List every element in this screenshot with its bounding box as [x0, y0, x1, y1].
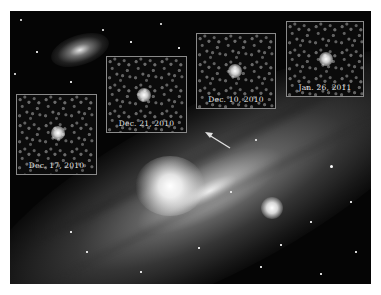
- inset-date-label: Dec. 17, 2010: [17, 161, 96, 170]
- nova-star: [51, 126, 65, 140]
- inset-date-label: Dec. 10, 2010: [197, 95, 275, 104]
- nova-star: [319, 52, 333, 66]
- inset-frame-dec-10: Dec. 10, 2010: [196, 33, 276, 109]
- inset-frame-dec-21: Dec. 21, 2010: [106, 56, 187, 133]
- inset-frame-dec-17: Dec. 17, 2010: [16, 94, 97, 175]
- inset-date-label: Dec. 21, 2010: [107, 119, 186, 128]
- inset-date-label: Jan. 26, 2011: [287, 83, 363, 92]
- inset-frame-jan-26: Jan. 26, 2011: [286, 21, 364, 97]
- nova-star: [137, 88, 151, 102]
